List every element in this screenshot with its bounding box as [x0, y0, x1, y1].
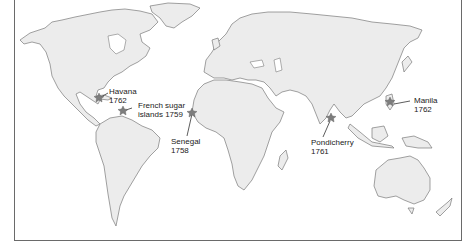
manila-leader	[394, 101, 410, 104]
sugar-islands-name: French sugar	[138, 101, 185, 110]
havana-name: Havana	[109, 87, 137, 96]
senegal-name: Senegal	[171, 137, 200, 146]
senegal-leader	[187, 114, 192, 136]
havana-year: 1762	[109, 96, 137, 105]
tasmania	[408, 208, 414, 214]
australia	[374, 156, 430, 204]
manila-label: Manila 1762	[414, 96, 438, 114]
south-america	[96, 116, 160, 226]
borneo	[372, 126, 388, 142]
senegal-year: 1758	[171, 146, 200, 155]
senegal-label: Senegal 1758	[171, 137, 200, 155]
greenland	[150, 3, 200, 28]
havana-label: Havana 1762	[109, 87, 137, 105]
pondicherry-name: Pondicherry	[311, 138, 354, 147]
new-guinea	[402, 136, 432, 148]
japan	[402, 56, 412, 72]
new-zealand	[436, 198, 452, 216]
africa	[192, 80, 284, 190]
pondicherry-year: 1761	[311, 147, 354, 156]
madagascar	[278, 150, 288, 170]
sugar-islands-year: islands 1759	[138, 110, 185, 119]
world-map	[0, 0, 470, 249]
sugar-islands-label: French sugar islands 1759	[138, 101, 185, 119]
sugar-islands-marker	[118, 106, 128, 115]
pondicherry-label: Pondicherry 1761	[311, 138, 354, 156]
manila-name: Manila	[414, 96, 438, 105]
manila-year: 1762	[414, 105, 438, 114]
star-marker-icon	[118, 106, 128, 115]
pondicherry-leader	[323, 121, 330, 137]
